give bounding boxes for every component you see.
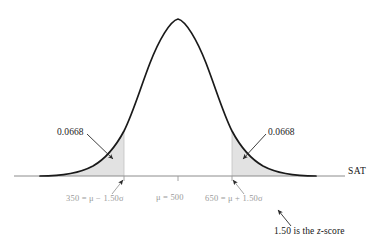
tick-label-upper-bound: 650 = μ + 1.50σ xyxy=(205,194,263,203)
zscore-note: 1.50 is the z-score xyxy=(274,227,345,237)
arrow-left-tick xyxy=(112,180,123,194)
tick-label-lower-bound: 350 = μ − 1.50σ xyxy=(66,194,124,203)
x-axis-label: SAT xyxy=(348,167,366,177)
normal-distribution-figure: 0.0668 0.0668 350 = μ − 1.50σ μ = 500 65… xyxy=(0,0,381,244)
area-label-left-tail: 0.0668 xyxy=(57,128,84,138)
arrow-right-area xyxy=(243,134,266,159)
shaded-region-left-tail xyxy=(40,131,124,176)
arrow-zscore-note xyxy=(278,210,291,226)
area-label-right-tail: 0.0668 xyxy=(268,128,295,138)
zscore-note-prefix: 1.50 is the xyxy=(274,226,317,236)
arrow-left-area xyxy=(87,134,113,159)
zscore-note-suffix: -score xyxy=(321,226,345,236)
tick-label-mean: μ = 500 xyxy=(156,193,184,202)
shaded-region-right-tail xyxy=(232,131,316,176)
distribution-plot xyxy=(0,0,381,244)
arrow-right-tick xyxy=(233,180,244,194)
normal-curve xyxy=(40,19,316,176)
